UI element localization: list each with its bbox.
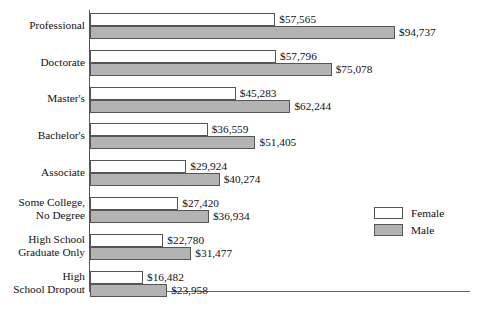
category-label: High School Dropout <box>0 270 85 295</box>
category-label: Some College, No Degree <box>0 196 85 221</box>
bar-male <box>90 100 290 113</box>
bar-male <box>90 284 167 297</box>
bar-value-female: $29,924 <box>190 160 227 173</box>
bar-value-male: $36,934 <box>213 210 250 223</box>
bar-value-female: $45,283 <box>240 87 277 100</box>
category-label: Bachelor's <box>0 129 85 142</box>
legend-item-female: Female <box>374 204 444 221</box>
bar-male <box>90 210 209 223</box>
bar-male <box>90 247 191 260</box>
bar-female <box>90 197 178 210</box>
bar-value-female: $57,565 <box>279 13 316 26</box>
legend-swatch-female <box>374 207 403 219</box>
legend-label: Female <box>411 207 444 219</box>
bar-female <box>90 50 276 63</box>
bar-value-female: $22,780 <box>167 234 204 247</box>
bar-female <box>90 87 236 100</box>
chart-legend: FemaleMale <box>374 204 444 238</box>
bar-value-male: $23,958 <box>171 284 208 297</box>
bar-value-male: $31,477 <box>195 247 232 260</box>
legend-item-male: Male <box>374 221 444 238</box>
bar-female <box>90 271 143 284</box>
category-label: Professional <box>0 19 85 32</box>
bar-female <box>90 160 186 173</box>
category-label: High School Graduate Only <box>0 233 85 258</box>
bar-value-female: $36,559 <box>212 123 249 136</box>
bar-value-male: $51,405 <box>259 136 296 149</box>
legend-swatch-male <box>374 224 403 236</box>
bar-female <box>90 123 208 136</box>
bar-value-female: $16,482 <box>147 271 184 284</box>
category-label: Associate <box>0 166 85 179</box>
category-label: Master's <box>0 92 85 105</box>
bar-value-male: $75,078 <box>336 63 373 76</box>
bar-value-female: $57,796 <box>280 50 317 63</box>
bar-value-male: $94,737 <box>399 26 436 39</box>
bar-male <box>90 136 255 149</box>
bar-female <box>90 234 163 247</box>
bar-female <box>90 13 275 26</box>
bar-value-male: $40,274 <box>224 173 261 186</box>
category-label: Doctorate <box>0 56 85 69</box>
bar-male <box>90 63 332 76</box>
bar-value-female: $27,420 <box>182 197 219 210</box>
bar-male <box>90 26 395 39</box>
bar-value-male: $62,244 <box>294 100 331 113</box>
legend-label: Male <box>411 224 434 236</box>
bar-chart: $57,565$94,737$57,796$75,078$45,283$62,2… <box>0 0 477 312</box>
bar-male <box>90 173 220 186</box>
